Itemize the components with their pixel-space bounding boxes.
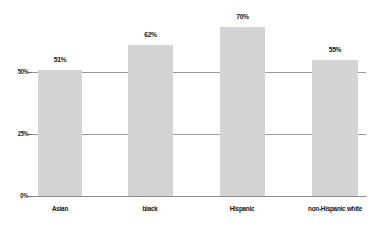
bar-asian [38, 70, 82, 196]
value-label-asian: 51% [42, 55, 79, 64]
tick-mark-25 [28, 134, 32, 135]
y-axis-label-50: 50% [17, 68, 28, 75]
bar-chart: 50% 25% 0% 51% 62% 70% 55% Asian black H… [0, 0, 379, 226]
category-label-hispanic: Hispanic [215, 204, 269, 213]
category-label-non-hispanic-white: non-Hispanic white [301, 204, 368, 213]
category-label-asian: Asian [33, 204, 87, 213]
y-axis-label-0: 0% [20, 192, 28, 199]
axis-baseline [32, 196, 366, 197]
plot-area: 50% 25% 0% 51% 62% 70% 55% Asian black H… [0, 0, 379, 226]
bar-non-hispanic-white [312, 60, 358, 196]
value-label-black: 62% [132, 30, 170, 39]
y-axis-label-25: 25% [17, 130, 28, 137]
value-label-hispanic: 70% [224, 12, 262, 21]
tick-mark-0 [28, 196, 32, 197]
bar-hispanic [220, 27, 265, 196]
value-label-non-hispanic-white: 55% [316, 45, 355, 54]
bar-black [128, 45, 173, 196]
category-label-black: black [123, 204, 177, 213]
tick-mark-50 [28, 72, 32, 73]
